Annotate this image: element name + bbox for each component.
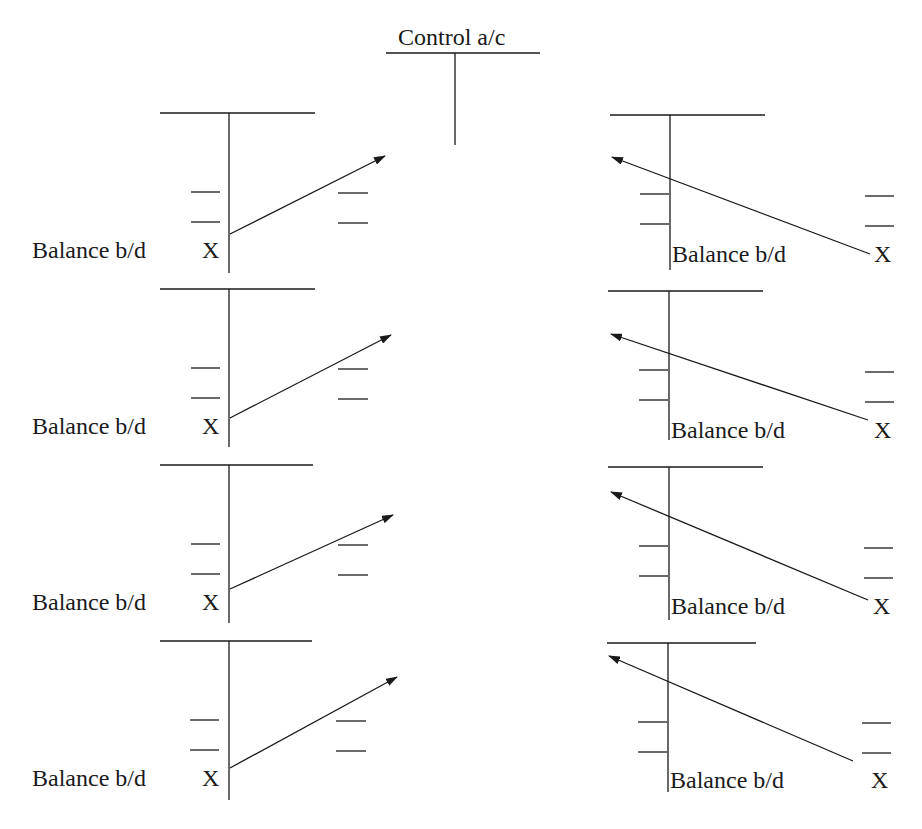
left-account-3-t [160, 465, 393, 623]
right-account-3-label: Balance b/d [671, 594, 785, 618]
right-account-3-value: X [873, 594, 890, 618]
right-account-2-value: X [874, 418, 891, 442]
left-account-1-t [160, 113, 385, 273]
control-account-t [386, 53, 540, 145]
left-account-4-value: X [202, 766, 219, 790]
left-account-2-label: Balance b/d [32, 414, 146, 438]
left-account-1-label: Balance b/d [32, 238, 146, 262]
left-account-2-value: X [202, 414, 219, 438]
right-account-1-label: Balance b/d [672, 242, 786, 266]
left-account-3-value: X [202, 590, 219, 614]
right-account-1-value: X [874, 242, 891, 266]
right-account-4-value: X [871, 768, 888, 792]
right-account-2-label: Balance b/d [671, 418, 785, 442]
right-account-4-label: Balance b/d [670, 768, 784, 792]
left-account-4-t [160, 641, 397, 800]
left-account-2-t [160, 289, 391, 447]
left-account-4-label: Balance b/d [32, 766, 146, 790]
left-account-1-value: X [202, 238, 219, 262]
left-account-3-label: Balance b/d [32, 590, 146, 614]
